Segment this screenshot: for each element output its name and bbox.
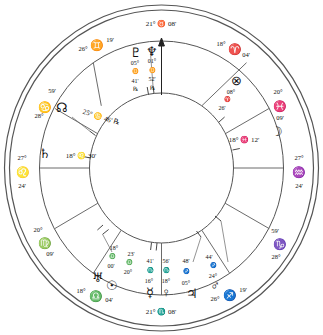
cusp-line-9 <box>202 63 247 106</box>
midheaven-arrow <box>159 38 165 95</box>
leader-sun <box>103 234 112 252</box>
leader-jupiter <box>193 237 201 262</box>
tick-uranus <box>97 225 103 230</box>
tick-moon <box>233 149 240 151</box>
tick-pluto <box>153 86 154 94</box>
tick-neptune <box>147 87 148 95</box>
chart-wheel-svg <box>0 0 323 335</box>
cusp-line-2 <box>55 203 98 228</box>
planet-tick-marks <box>83 86 240 251</box>
cusp-line-8 <box>225 108 269 133</box>
leader-mars <box>221 221 228 262</box>
tick-saturn <box>83 157 90 159</box>
cusp-line-6 <box>225 203 269 228</box>
inner-aspect-circle <box>90 93 234 243</box>
cusp-line-11 <box>93 63 101 106</box>
leader-pluto <box>150 47 153 86</box>
mc-arrow-head <box>159 38 165 46</box>
tick-mars <box>215 216 221 221</box>
tick-pof <box>219 117 225 122</box>
tick-venus <box>156 243 157 251</box>
planet-leader-lines <box>72 47 228 262</box>
leader-node <box>72 117 90 131</box>
cusp-line-3 <box>93 230 121 273</box>
cusp-line-5 <box>202 230 230 273</box>
astrology-chart-wheel: 21° ♉ 08' 21° ♏ 08' 26° ♊ 19' 59' ♋ 28° … <box>0 0 323 335</box>
tick-mercury <box>151 243 152 251</box>
tick-sun <box>103 230 109 235</box>
cusp-line-12 <box>55 108 98 133</box>
